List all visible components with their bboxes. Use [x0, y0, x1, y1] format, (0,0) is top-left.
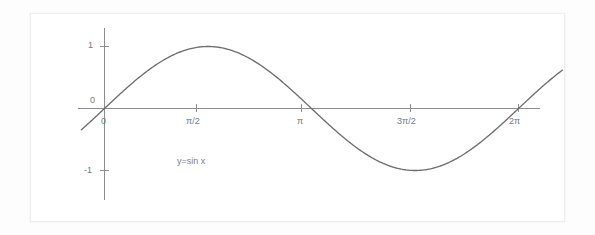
x-axis-label-pi: π	[297, 117, 303, 126]
x-axis-label-pi-over-two: π/2	[186, 117, 200, 126]
y-axis-label-one: 1	[88, 41, 93, 50]
y-axis-label-negative-one: -1	[84, 166, 92, 175]
equation-annotation: y=sin x	[177, 157, 205, 166]
x-axis-label-three-pi-over-two: 3π/2	[397, 117, 416, 126]
y-axis-label-zero: 0	[90, 96, 95, 105]
x-axis-label-zero: 0	[101, 117, 106, 126]
page-background: 1 0 -1 0 π/2 π 3π/2 2π y=sin x	[0, 0, 595, 235]
x-axis-label-two-pi: 2π	[509, 117, 520, 126]
